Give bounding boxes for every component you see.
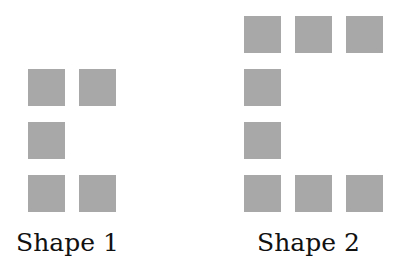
square-tile [28, 175, 65, 212]
square-tile [295, 16, 332, 53]
square-tile [244, 16, 281, 53]
square-tile [346, 16, 383, 53]
shape-2-label: Shape 2 [257, 230, 360, 255]
square-tile [244, 69, 281, 106]
square-tile [295, 175, 332, 212]
square-tile [244, 122, 281, 159]
square-tile [346, 175, 383, 212]
square-tile [79, 175, 116, 212]
shape-1-label: Shape 1 [16, 230, 119, 255]
square-tile [79, 69, 116, 106]
square-tile [28, 69, 65, 106]
square-tile [28, 122, 65, 159]
square-tile [244, 175, 281, 212]
